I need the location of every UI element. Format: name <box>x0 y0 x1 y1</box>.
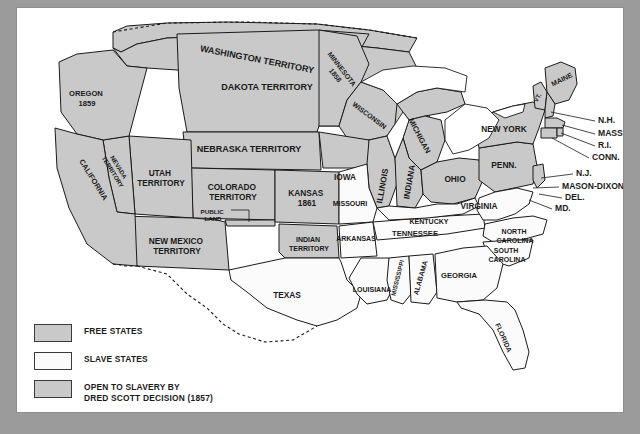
label-georgia: GEORGIA <box>441 271 477 280</box>
legend-label-dred-scott-line1: OPEN TO SLAVERY BY <box>84 382 213 393</box>
legend-label-dred-scott: OPEN TO SLAVERY BY DRED SCOTT DECISION (… <box>84 380 213 403</box>
label-oregon-name: OREGON <box>69 89 103 98</box>
label-ohio: OHIO <box>444 174 466 184</box>
label-new-mexico-line2: TERRITORY <box>153 246 201 256</box>
label-oregon-year: 1859 <box>79 99 96 108</box>
label-mason-dixon-line: MASON-DIXON LINE <box>562 181 623 191</box>
label-new-mexico-territory: NEW MEXICO TERRITORY <box>149 236 206 256</box>
label-new-jersey: N.J. <box>576 168 592 178</box>
leader-delaware <box>539 194 562 198</box>
label-delaware: DEL. <box>565 192 585 202</box>
label-connecticut: CONN. <box>592 152 620 162</box>
region-new-jersey[interactable] <box>533 164 545 188</box>
label-new-mexico-line1: NEW MEXICO <box>149 236 204 246</box>
legend-item-slave-states[interactable]: SLAVE STATES <box>34 352 294 370</box>
label-new-hampshire: N.H. <box>598 115 615 125</box>
legend-item-free-states[interactable]: FREE STATES <box>34 324 294 342</box>
label-public-land-line2: LAND <box>204 215 222 222</box>
label-massachusetts: MASS. <box>598 128 623 138</box>
legend-swatch-free-states <box>34 324 72 342</box>
map-page: DAKOTA TERRITORY NEBRASKA TERRITORY COLO… <box>0 0 640 434</box>
map-sheet: DAKOTA TERRITORY NEBRASKA TERRITORY COLO… <box>17 8 623 412</box>
label-texas: TEXAS <box>273 290 301 300</box>
legend-label-dred-scott-line2: DRED SCOTT DECISION (1857) <box>84 393 213 404</box>
label-north-carolina-line1: NORTH <box>502 228 527 235</box>
region-public-land[interactable] <box>225 220 275 226</box>
label-north-carolina-line2: CAROLINA <box>497 237 534 244</box>
label-colorado-line1: COLORADO <box>208 182 257 192</box>
label-south-carolina-line2: CAROLINA <box>489 256 526 263</box>
label-arkansas: ARKANSAS <box>336 235 376 242</box>
legend-label-free-states: FREE STATES <box>84 324 143 337</box>
map-legend: FREE STATES SLAVE STATES OPEN TO SLAVERY… <box>34 324 294 413</box>
label-kansas-year: 1861 <box>298 198 317 208</box>
label-utah-line2: TERRITORY <box>137 178 185 188</box>
legend-swatch-slave-states <box>34 352 72 370</box>
label-new-york: NEW YORK <box>481 124 526 134</box>
label-indian-line1: INDIAN <box>296 236 320 243</box>
label-kansas-name: KANSAS <box>288 188 324 198</box>
label-iowa: IOWA <box>334 172 356 182</box>
label-colorado-line2: TERRITORY <box>209 192 257 202</box>
label-utah-line1: UTAH <box>149 168 171 178</box>
label-public-land-line1: PUBLIC <box>201 208 225 215</box>
legend-item-dred-scott[interactable]: OPEN TO SLAVERY BY DRED SCOTT DECISION (… <box>34 380 294 403</box>
label-pennsylvania: PENN. <box>491 160 516 170</box>
label-missouri: MISSOURI <box>333 200 368 207</box>
label-maryland: MD. <box>555 203 571 213</box>
label-louisiana: LOUISIANA <box>353 286 392 293</box>
legend-swatch-dred-scott <box>34 380 72 398</box>
label-dakota-territory: DAKOTA TERRITORY <box>221 82 313 92</box>
leader-new-jersey <box>541 174 573 178</box>
label-south-carolina-line1: SOUTH <box>494 247 519 254</box>
leader-maryland <box>529 200 552 209</box>
label-colorado-territory: COLORADO TERRITORY <box>208 182 259 202</box>
label-nebraska-territory: NEBRASKA TERRITORY <box>197 144 302 154</box>
region-connecticut[interactable] <box>541 128 557 138</box>
region-massachusetts[interactable] <box>545 118 565 128</box>
label-indian-line2: TERRITORY <box>289 245 329 252</box>
legend-label-slave-states: SLAVE STATES <box>84 352 148 365</box>
region-florida[interactable] <box>457 300 529 370</box>
label-kentucky: KENTUCKY <box>410 218 449 225</box>
label-tennessee: TENNESSEE <box>392 229 438 238</box>
leader-connecticut <box>552 138 589 158</box>
region-rhode-island[interactable] <box>557 128 563 136</box>
label-rhode-island: R.I. <box>598 140 611 150</box>
label-virginia: VIRGINIA <box>461 201 498 211</box>
leader-rhode-island <box>561 133 595 146</box>
leader-massachusetts <box>562 125 595 134</box>
